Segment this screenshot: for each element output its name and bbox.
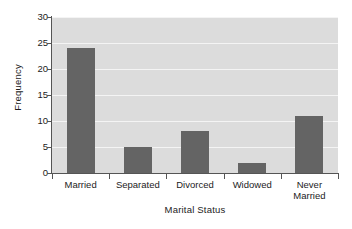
bar-slot — [52, 17, 109, 173]
plot-area — [52, 17, 338, 173]
x-axis-title: Marital Status — [52, 204, 338, 215]
y-axis-tick-mark — [47, 147, 52, 148]
bar[interactable] — [295, 116, 323, 173]
y-axis-tick-label: 25 — [24, 38, 48, 48]
bar[interactable] — [181, 131, 209, 173]
x-axis-tick-mark — [338, 174, 339, 179]
y-axis-tick-mark — [47, 69, 52, 70]
x-axis-tick-mark — [281, 174, 282, 179]
bar[interactable] — [238, 163, 266, 173]
y-axis-tick-mark — [47, 43, 52, 44]
y-axis-title-text: Frequency — [12, 64, 23, 111]
bar-series — [52, 17, 338, 173]
x-axis-tick-label: Never Married — [274, 179, 344, 201]
y-axis-tick-labels: 051015202530 — [24, 12, 48, 178]
x-axis-tick-mark — [166, 174, 167, 179]
bar-slot — [166, 17, 223, 173]
y-axis-tick-label: 5 — [24, 142, 48, 152]
bar[interactable] — [67, 48, 95, 173]
y-axis-tick-mark — [47, 17, 52, 18]
y-axis-tick-label: 0 — [24, 168, 48, 178]
y-axis-tick-label: 15 — [24, 90, 48, 100]
bar-slot — [224, 17, 281, 173]
bar-slot — [109, 17, 166, 173]
y-axis-tick-mark — [47, 121, 52, 122]
bar[interactable] — [124, 147, 152, 173]
bar-chart: Frequency 051015202530 MarriedSeparatedD… — [0, 0, 352, 229]
y-axis-tick-label: 20 — [24, 64, 48, 74]
y-axis-tick-mark — [47, 95, 52, 96]
x-axis-tick-mark — [109, 174, 110, 179]
x-axis-tick-mark — [52, 174, 53, 179]
bar-slot — [281, 17, 338, 173]
y-axis-tick-label: 10 — [24, 116, 48, 126]
x-axis-line — [51, 173, 339, 174]
y-axis-tick-label: 30 — [24, 12, 48, 22]
x-axis-tick-mark — [224, 174, 225, 179]
